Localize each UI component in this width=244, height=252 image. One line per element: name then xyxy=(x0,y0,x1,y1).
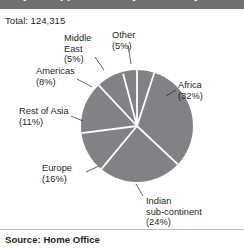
pie-label-indian-sub-continent: Indian sub-continent (24%) xyxy=(146,196,202,228)
pie-label-africa-pct: (32%) xyxy=(178,91,203,102)
pie-label-indian-line1: Indian xyxy=(146,196,202,207)
pie-label-indian-pct: (24%) xyxy=(146,217,202,228)
pie-label-rest-of-asia-pct: (11%) xyxy=(19,117,69,128)
pie-label-europe: Europe (16%) xyxy=(42,163,72,184)
pie-label-americas-pct: (8%) xyxy=(36,77,75,88)
pie-label-middle-east-line2: East xyxy=(64,44,91,55)
pie-label-other: Other (5%) xyxy=(112,30,135,51)
source-note: Source: Home Office xyxy=(5,234,100,245)
pie-label-americas: Americas (8%) xyxy=(36,66,75,87)
leader-line-middle-east xyxy=(95,57,104,70)
pie-chart-figure: Asylum applications by nationality Total… xyxy=(0,0,244,252)
leader-line-rest-asia xyxy=(71,116,83,121)
pie-label-other-pct: (5%) xyxy=(112,41,135,52)
pie-label-africa: Africa (32%) xyxy=(178,80,203,101)
leader-line-indian xyxy=(136,184,143,196)
pie-label-middle-east: Middle East (5%) xyxy=(64,33,91,65)
leader-line-americas xyxy=(77,79,92,87)
pie-label-rest-of-asia-line1: Rest of Asia xyxy=(19,106,69,117)
pie-label-middle-east-line1: Middle xyxy=(64,33,91,44)
pie-label-other-line1: Other xyxy=(112,30,135,41)
leader-line-europe xyxy=(86,166,99,172)
pie-label-middle-east-pct: (5%) xyxy=(64,54,91,65)
footer-divider xyxy=(0,229,244,230)
pie-label-americas-line1: Americas xyxy=(36,66,75,77)
pie-label-indian-line2: sub-continent xyxy=(146,207,202,218)
pie-label-europe-pct: (16%) xyxy=(42,174,72,185)
pie-label-rest-of-asia: Rest of Asia (11%) xyxy=(19,106,69,127)
pie-label-europe-line1: Europe xyxy=(42,163,72,174)
pie-label-africa-line1: Africa xyxy=(178,80,203,91)
